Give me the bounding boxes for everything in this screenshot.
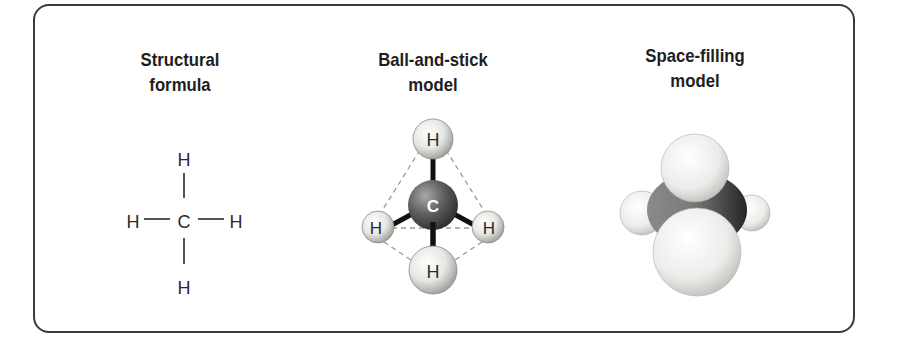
sf-hydrogen-bottom bbox=[653, 208, 741, 296]
structural-formula: H C H H H bbox=[127, 150, 243, 298]
ball-label-h-right: H bbox=[483, 219, 495, 238]
atom-h-bottom: H bbox=[178, 278, 191, 298]
atom-c-center: C bbox=[178, 212, 191, 232]
ball-label-c: C bbox=[427, 197, 439, 216]
sf-hydrogen-top bbox=[661, 134, 729, 202]
atom-h-top: H bbox=[178, 150, 191, 170]
ball-label-h-bottom: H bbox=[427, 262, 440, 282]
ball-label-h-left: H bbox=[370, 219, 382, 238]
space-filling-model bbox=[620, 134, 770, 296]
ball-and-stick-model: H C H H H bbox=[362, 119, 504, 294]
atom-h-left: H bbox=[127, 212, 140, 232]
atom-h-right: H bbox=[230, 212, 243, 232]
ball-label-h-top: H bbox=[427, 130, 440, 150]
